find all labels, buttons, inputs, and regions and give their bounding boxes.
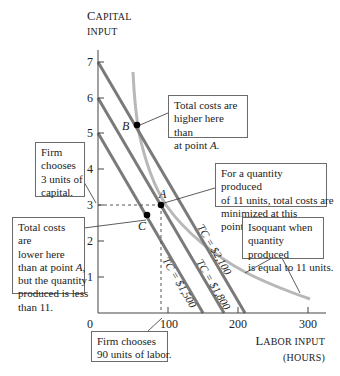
x-axis-title-line2: (HOURS) <box>283 352 325 364</box>
callout-line: Total costs are <box>174 99 242 112</box>
callout-line: quantity produced <box>248 234 318 261</box>
y-tick-1: 1 <box>87 270 93 284</box>
callout-line: of 11 units, total costs are <box>221 194 321 207</box>
callout-line: For a quantity produced <box>221 167 321 194</box>
callout-line: than 11. <box>18 301 79 314</box>
y-axis-title-line2: INPUT <box>87 26 117 37</box>
callout-line: 3 units of <box>41 173 79 186</box>
point-a <box>158 202 165 209</box>
callout-line: Firm chooses <box>97 335 162 348</box>
callout-line: than at point A, <box>18 261 79 274</box>
callout-line: Firm <box>41 146 79 159</box>
x-tick-300: 300 <box>299 317 317 331</box>
x-axis-title: LABOR INPUT <box>255 334 325 348</box>
y-tick-5: 5 <box>87 126 93 140</box>
callout-point-ref: A. <box>210 139 219 151</box>
callout-line: chooses <box>41 159 79 172</box>
callout-line: Total costs are <box>18 221 79 248</box>
callout-line: 90 units of labor. <box>97 348 162 361</box>
callout-labor: Firm chooses 90 units of labor. <box>91 331 168 362</box>
x-tick-200: 200 <box>229 317 247 331</box>
callout-line: higher here than <box>174 112 242 139</box>
callout-line: produced is less <box>18 287 79 300</box>
y-tick-4: 4 <box>87 162 93 176</box>
callout-capital: Firm chooses 3 units of capital. <box>35 142 85 197</box>
callout-point-ref: A, <box>76 261 85 273</box>
y-ticks <box>98 62 104 277</box>
y-tick-6: 6 <box>87 91 93 105</box>
point-b <box>134 122 141 129</box>
callout-higher-costs: Total costs are higher here than at poin… <box>168 95 248 138</box>
callout-minimized: For a quantity produced of 11 units, tot… <box>215 163 327 207</box>
point-a-label: A <box>158 187 167 201</box>
x-tick-0: 0 <box>87 317 93 331</box>
y-tick-7: 7 <box>87 55 93 69</box>
y-tick-3: 3 <box>87 198 93 212</box>
callout-text: at point <box>174 139 210 151</box>
callout-line: is equal to 11 units. <box>248 261 318 274</box>
leader-c <box>84 220 146 228</box>
point-c-label: C <box>138 219 147 233</box>
x-tick-100: 100 <box>160 317 178 331</box>
callout-line: at point A. <box>174 139 242 152</box>
callout-line: Isoquant when <box>248 221 318 234</box>
point-c <box>144 212 151 219</box>
callout-text: than at point <box>18 261 76 273</box>
point-b-label: B <box>122 119 130 133</box>
callout-line: lower here <box>18 248 79 261</box>
callout-line: but the quantity <box>18 274 79 287</box>
y-tick-2: 2 <box>87 234 93 248</box>
callout-line: capital. <box>41 186 79 199</box>
callout-isoquant: Isoquant when quantity produced is equal… <box>242 217 324 259</box>
leader-b <box>140 113 168 125</box>
y-axis-title: CAPITAL <box>87 9 132 23</box>
callout-lower-costs: Total costs are lower here than at point… <box>12 217 85 294</box>
